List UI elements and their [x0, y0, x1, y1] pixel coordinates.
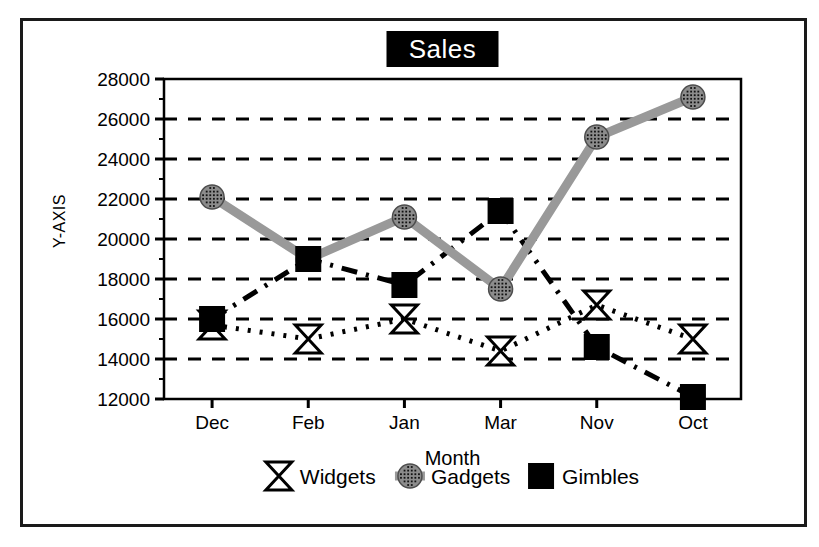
legend-label-widgets: Widgets — [300, 465, 376, 488]
x-axis-tick-labels: DecFebJanMarNovOct — [195, 412, 708, 433]
series-lines — [212, 97, 693, 397]
chart-legend: WidgetsGadgetsGimbles — [266, 462, 639, 490]
series-line-widgets — [212, 305, 693, 351]
legend-label-gimbles: Gimbles — [562, 465, 639, 488]
marker-gadgets-nov — [585, 125, 609, 149]
marker-gimbles-dec — [199, 306, 225, 332]
y-axis-ticks — [155, 79, 164, 399]
legend-marker-widgets — [266, 462, 292, 490]
marker-widgets-nov — [584, 291, 610, 319]
marker-gimbles-mar — [488, 198, 514, 224]
legend-item-gadgets[interactable]: Gadgets — [395, 464, 510, 488]
marker-gimbles-feb — [295, 246, 321, 272]
y-tick-label: 24000 — [97, 149, 150, 170]
y-tick-label: 14000 — [97, 349, 150, 370]
y-tick-label: 18000 — [97, 269, 150, 290]
legend-item-gimbles[interactable]: Gimbles — [528, 463, 639, 489]
y-axis-title: Y-AXIS — [51, 194, 68, 248]
y-tick-label: 22000 — [97, 189, 150, 210]
marker-widgets-oct — [680, 325, 706, 353]
chart-title: Sales — [387, 31, 499, 67]
grid-lines — [164, 119, 741, 359]
legend-label-gadgets: Gadgets — [431, 465, 510, 488]
marker-widgets-feb — [295, 325, 321, 353]
legend-marker-gimbles — [528, 463, 554, 489]
chart-outer-frame: Sales 1200014000160001800020000220002400… — [20, 18, 807, 527]
chart-title-label: Sales — [409, 34, 477, 64]
x-tick-label: Dec — [195, 412, 229, 433]
x-axis-ticks — [212, 399, 693, 408]
legend-marker-gadgets — [398, 464, 422, 488]
y-tick-label: 20000 — [97, 229, 150, 250]
sales-line-chart: Sales 1200014000160001800020000220002400… — [23, 21, 804, 524]
marker-gadgets-dec — [200, 185, 224, 209]
marker-gadgets-jan — [392, 205, 416, 229]
x-tick-label: Nov — [580, 412, 614, 433]
y-tick-label: 16000 — [97, 309, 150, 330]
y-tick-label: 28000 — [97, 69, 150, 90]
marker-widgets-mar — [488, 337, 514, 365]
y-tick-label: 12000 — [97, 389, 150, 410]
y-axis-tick-labels: 1200014000160001800020000220002400026000… — [97, 69, 150, 410]
x-tick-label: Oct — [678, 412, 708, 433]
marker-gimbles-nov — [584, 334, 610, 360]
y-tick-label: 26000 — [97, 109, 150, 130]
marker-gimbles-oct — [680, 384, 706, 410]
x-tick-label: Jan — [389, 412, 420, 433]
marker-gadgets-oct — [681, 85, 705, 109]
marker-gimbles-jan — [391, 272, 417, 298]
marker-gadgets-mar — [489, 277, 513, 301]
x-tick-label: Feb — [292, 412, 325, 433]
legend-item-widgets[interactable]: Widgets — [266, 462, 376, 490]
x-tick-label: Mar — [484, 412, 517, 433]
series-line-gadgets — [212, 97, 693, 289]
